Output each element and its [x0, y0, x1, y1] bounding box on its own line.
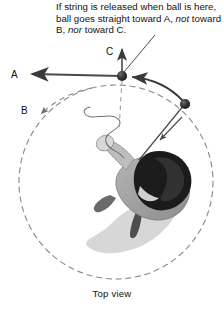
- ball-on-string: [180, 99, 190, 109]
- label-a: A: [11, 69, 18, 80]
- arrow-to-a: [32, 74, 121, 76]
- top-view-caption: Top view: [0, 288, 224, 299]
- ball-at-release-point: [117, 71, 127, 81]
- figure-root: If string is released when ball is here,…: [0, 0, 224, 309]
- label-b: B: [21, 105, 28, 116]
- annotation-leader-line: [124, 35, 155, 72]
- motion-arrow: [133, 77, 183, 101]
- label-c: C: [106, 46, 113, 57]
- diagram-canvas: A B C: [0, 0, 224, 309]
